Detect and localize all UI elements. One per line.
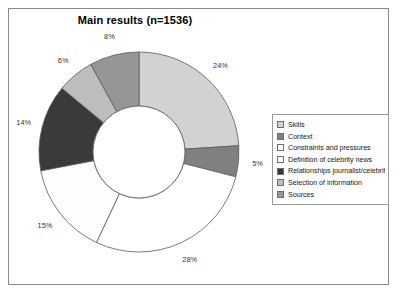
- legend-item[interactable]: Sources: [277, 189, 385, 201]
- legend-label: Sources: [288, 189, 314, 201]
- legend-label: Context: [288, 131, 312, 143]
- chart-title: Main results (n=1536): [0, 14, 270, 26]
- legend-swatch-context: [277, 133, 284, 140]
- legend-label: Selection of information: [288, 177, 362, 189]
- slice-percent-label: 5%: [252, 159, 263, 168]
- legend-item[interactable]: Skills: [277, 119, 385, 131]
- slice-percent-label: 6%: [58, 56, 69, 65]
- legend-item[interactable]: Relationships journalist/celebrity: [277, 165, 385, 177]
- chart-legend: Skills Context Constraints and pressures…: [272, 114, 389, 205]
- donut-svg: 24%5%28%15%14%6%8%: [8, 26, 270, 284]
- donut-chart: 24%5%28%15%14%6%8%: [8, 26, 270, 284]
- legend-item[interactable]: Definition of celebrity news: [277, 154, 385, 166]
- slice-percent-label: 15%: [38, 221, 53, 230]
- legend-label: Constraints and pressures: [288, 142, 371, 154]
- legend-swatch-constraints-and-pressures: [277, 144, 284, 151]
- donut-hole: [93, 106, 185, 198]
- chart-figure: Main results (n=1536) 24%5%28%15%14%6%8%…: [0, 0, 400, 296]
- legend-item[interactable]: Context: [277, 131, 385, 143]
- legend-swatch-sources: [277, 191, 284, 198]
- slice-percent-label: 28%: [182, 255, 197, 264]
- legend-item[interactable]: Selection of information: [277, 177, 385, 189]
- legend-swatch-definition-of-celebrity-news: [277, 156, 284, 163]
- slice-percent-label: 24%: [213, 61, 228, 70]
- legend-label: Skills: [288, 119, 304, 131]
- legend-item[interactable]: Constraints and pressures: [277, 142, 385, 154]
- slice-percent-label: 14%: [16, 118, 31, 127]
- legend-label: Definition of celebrity news: [288, 154, 372, 166]
- legend-label: Relationships journalist/celebrity: [288, 165, 385, 177]
- slice-group: [39, 52, 239, 252]
- legend-swatch-selection-of-information: [277, 179, 284, 186]
- legend-swatch-relationships-journalist-celebrity: [277, 168, 284, 175]
- legend-swatch-skills: [277, 121, 284, 128]
- slice-percent-label: 8%: [104, 32, 115, 41]
